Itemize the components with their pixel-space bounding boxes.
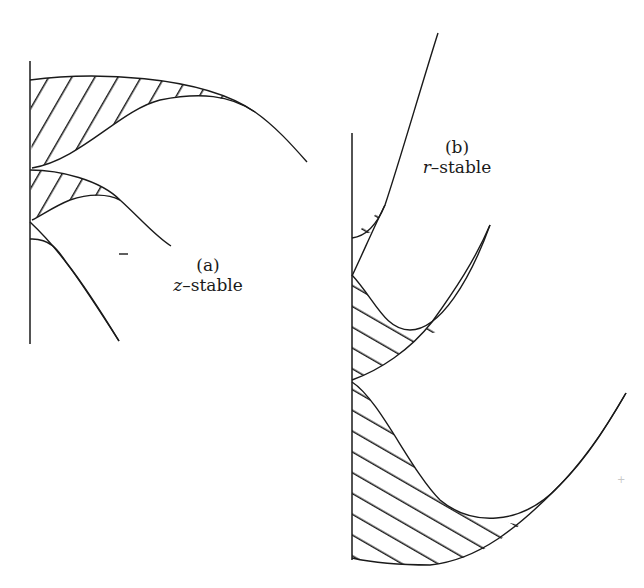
panel-a-label: (a) z–stable	[168, 255, 248, 295]
panel-a-tag: (a)	[168, 255, 248, 275]
panel-a-hatched-region-1	[28, 60, 307, 175]
panel-b-hatched-region-3	[350, 378, 626, 578]
panel-a-caption: z–stable	[168, 275, 248, 295]
panel-b	[350, 33, 626, 578]
stability-diagram: + (a) z–stable (b) r–stable	[0, 0, 644, 588]
panel-a-hatched-region-2	[28, 165, 171, 246]
scan-artifact: +	[617, 474, 625, 485]
panel-b-caption: r–stable	[412, 157, 502, 177]
panel-a	[28, 60, 307, 344]
panel-b-tag: (b)	[412, 137, 502, 157]
panel-b-hatched-region-2	[350, 225, 490, 385]
panel-b-label: (b) r–stable	[412, 137, 502, 177]
diagram-svg: +	[0, 0, 644, 588]
panel-a-lower-curves	[30, 222, 119, 341]
